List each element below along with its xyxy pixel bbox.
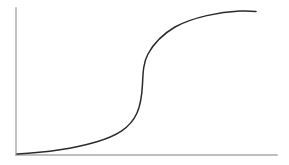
chart-background <box>0 0 289 165</box>
plot-area <box>0 0 289 165</box>
chart-figure <box>0 0 289 165</box>
